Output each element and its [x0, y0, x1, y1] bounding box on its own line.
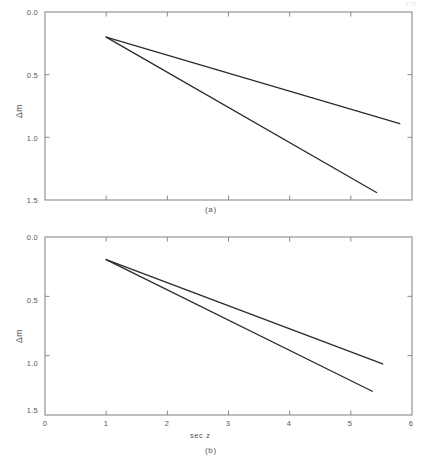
x-tick-label-4: 4	[282, 419, 296, 428]
figure-page: 573 Δm 0.0 0.5 1.0 1.5 (a) Δm 0.0 0.5 1.…	[0, 0, 422, 459]
chart-b-canvas	[0, 225, 422, 459]
x-tick-label-1: 1	[99, 419, 113, 428]
y-tick-label-a-2: 1.0	[12, 134, 38, 143]
y-tick-label-a-0: 0.0	[12, 8, 38, 17]
x-tick-label-2: 2	[160, 419, 174, 428]
data-line-lower	[106, 260, 372, 392]
plot-frame	[45, 237, 412, 415]
x-axis-title: sec z	[190, 431, 211, 440]
y-tick-label-b-1: 0.5	[12, 296, 38, 305]
x-tick-label-0: 0	[38, 419, 52, 428]
y-axis-title-a: Δm	[14, 104, 24, 118]
plot-frame	[45, 12, 412, 200]
panel-a-caption: (a)	[181, 205, 241, 214]
data-line-lower	[106, 37, 376, 192]
data-line-upper	[106, 260, 382, 364]
y-tick-label-b-0: 0.0	[12, 233, 38, 242]
chart-a-canvas	[0, 0, 422, 215]
y-tick-label-b-3: 1.5	[12, 406, 38, 415]
x-tick-label-6: 6	[404, 419, 418, 428]
data-line-upper	[106, 37, 400, 123]
y-tick-label-a-1: 0.5	[12, 71, 38, 80]
y-tick-label-a-3: 1.5	[12, 196, 38, 205]
chart-panel-b: Δm 0.0 0.5 1.0 1.5 0 1 2 3 4 5 6 sec z (…	[0, 225, 422, 459]
panel-b-caption: (b)	[181, 446, 241, 455]
x-tick-label-5: 5	[343, 419, 357, 428]
x-tick-label-3: 3	[221, 419, 235, 428]
chart-panel-a: Δm 0.0 0.5 1.0 1.5 (a)	[0, 0, 422, 215]
y-tick-label-b-2: 1.0	[12, 359, 38, 368]
y-axis-title-b: Δm	[14, 329, 24, 343]
